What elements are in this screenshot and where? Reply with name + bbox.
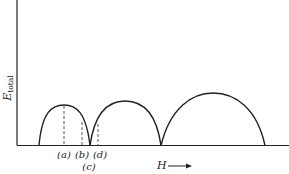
marker-label-d: (d) (93, 149, 107, 160)
y-axis-label-subscript: total (6, 75, 15, 93)
marker-label-b: (b) (75, 149, 89, 160)
svg-text:Etotal: Etotal (1, 75, 15, 102)
marker-label-c: (c) (82, 161, 96, 172)
marker-label-a: (a) (57, 149, 71, 160)
y-axis-label: E (1, 93, 14, 102)
energy-vs-field-diagram: Etotal (a) (b) (c) (d) H (0, 0, 289, 174)
arch-2 (90, 101, 161, 146)
arch-3 (161, 93, 265, 146)
x-axis-arrow-head-icon (186, 164, 192, 169)
x-axis-label: H (156, 159, 167, 172)
